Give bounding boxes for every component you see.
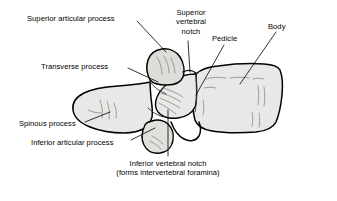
label-superior-articular-process: Superior articular process: [27, 14, 115, 23]
vertebral-body-shape: [193, 64, 283, 133]
label-superior-vertebral-notch-line1: Superior: [163, 8, 219, 17]
label-inferior-vertebral-notch: Inferior vertebral notch (forms interver…: [92, 159, 244, 178]
label-superior-vertebral-notch-line3: notch: [163, 27, 219, 36]
label-inferior-vertebral-notch-line2: (forms intervertebral foramina): [92, 168, 244, 177]
label-pedicle: Pedicle: [212, 34, 237, 43]
label-body: Body: [268, 22, 285, 31]
vertebra-diagram: Superior articular process Transverse pr…: [0, 0, 337, 201]
label-superior-vertebral-notch: Superior vertebral notch: [163, 8, 219, 36]
label-spinous-process: Spinous process: [19, 119, 76, 128]
label-inferior-vertebral-notch-line1: Inferior vertebral notch: [92, 159, 244, 168]
label-transverse-process: Transverse process: [41, 62, 108, 71]
label-superior-vertebral-notch-line2: vertebral: [163, 17, 219, 26]
label-inferior-articular-process: Inferior articular process: [31, 138, 114, 147]
inferior-articular-process-shape: [142, 120, 173, 153]
